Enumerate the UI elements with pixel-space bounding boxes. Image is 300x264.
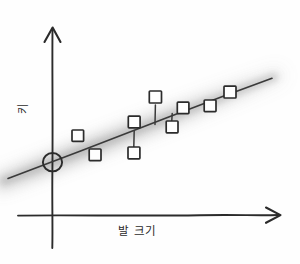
x-axis-label: 발 크기 [118,222,157,238]
data-point-square [128,116,140,128]
data-point-square [177,102,189,113]
data-point-square [128,147,140,159]
y-axis-label: 키 [14,102,30,114]
horizontal-axis [18,208,281,223]
data-point-square [166,121,178,133]
data-point-square [224,86,236,98]
data-point-square [204,100,216,112]
data-point-square [149,91,161,103]
sketch-figure: 발 크기 키 [0,0,300,264]
data-point-square [89,149,101,161]
data-point-square [72,130,84,141]
